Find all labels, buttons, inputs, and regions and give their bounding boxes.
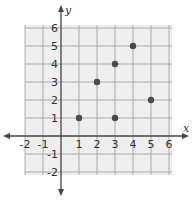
x-tick-label: 6 xyxy=(166,138,173,151)
x-tick-label: -2 xyxy=(20,138,31,151)
y-tick-label: -2 xyxy=(47,166,58,179)
y-tick-label: -1 xyxy=(47,148,58,161)
y-tick-label: 5 xyxy=(51,40,58,53)
y-tick-label: 4 xyxy=(51,58,58,71)
data-point xyxy=(94,79,100,85)
data-point xyxy=(130,43,136,49)
coordinate-plane: x y -2-1123456 654321-1-2 xyxy=(0,0,193,201)
x-tick-label: 1 xyxy=(76,138,83,151)
x-tick-label: 2 xyxy=(94,138,101,151)
y-axis-up-arrow-icon xyxy=(58,5,64,12)
x-tick-label: 4 xyxy=(130,138,137,151)
x-axis-label: x xyxy=(183,122,190,135)
data-point xyxy=(148,97,154,103)
y-tick-label: 6 xyxy=(51,22,58,35)
y-tick-label: 2 xyxy=(51,94,58,107)
y-tick-label: 3 xyxy=(51,76,58,89)
x-tick-labels: -2-1123456 xyxy=(20,138,173,151)
y-tick-label: 1 xyxy=(51,112,58,125)
data-point xyxy=(76,115,82,121)
x-axis-left-arrow-icon xyxy=(3,133,10,139)
x-tick-label: 5 xyxy=(148,138,155,151)
y-axis-down-arrow-icon xyxy=(58,189,64,196)
data-point xyxy=(112,61,118,67)
x-tick-label: 3 xyxy=(112,138,119,151)
data-point xyxy=(112,115,118,121)
y-axis-label: y xyxy=(64,4,72,17)
